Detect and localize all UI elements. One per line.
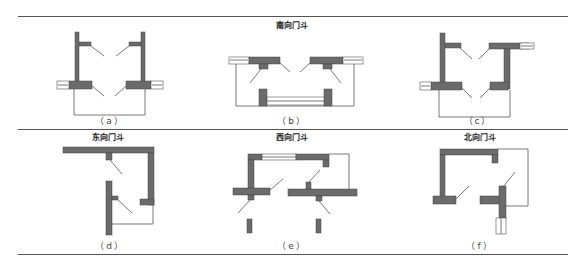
plan-c	[420, 33, 534, 117]
plan-e	[233, 154, 357, 233]
plan-d	[63, 147, 154, 235]
floorplan-diagrams: .w { fill:#6b6b6b; stroke:#444; stroke-w…	[0, 0, 585, 267]
plan-f	[433, 149, 528, 234]
plan-b	[229, 57, 363, 106]
plan-a	[57, 32, 163, 115]
